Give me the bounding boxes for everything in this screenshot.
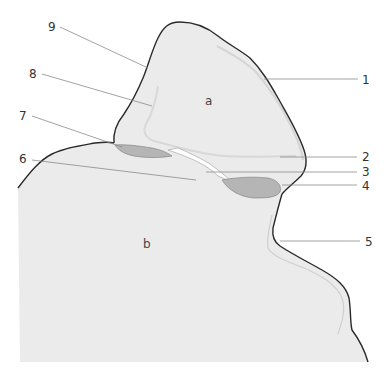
region-b-shape bbox=[18, 142, 368, 362]
region-label-b: b bbox=[143, 237, 151, 251]
callout-6: 6 bbox=[19, 152, 27, 166]
leader-9 bbox=[60, 27, 148, 68]
callout-8: 8 bbox=[29, 67, 37, 81]
leader-7 bbox=[32, 116, 122, 147]
region-label-a: a bbox=[205, 94, 212, 108]
diagram-svg: a b 1 2 3 4 5 6 7 8 9 bbox=[0, 0, 390, 372]
anatomical-diagram: a b 1 2 3 4 5 6 7 8 9 bbox=[0, 0, 390, 372]
leader-8 bbox=[42, 74, 152, 106]
callout-3: 3 bbox=[362, 165, 370, 179]
callout-5: 5 bbox=[365, 235, 373, 249]
callout-9: 9 bbox=[48, 20, 56, 34]
callout-7: 7 bbox=[19, 109, 27, 123]
callout-1: 1 bbox=[362, 73, 370, 87]
callout-4: 4 bbox=[362, 179, 370, 193]
callout-2: 2 bbox=[362, 150, 370, 164]
